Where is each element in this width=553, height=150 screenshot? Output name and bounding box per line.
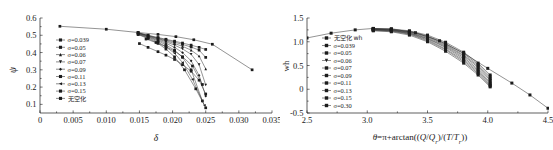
series-point: [183, 68, 186, 71]
series-point: [192, 38, 195, 41]
legend-label: σ=0.06: [334, 57, 352, 64]
legend-label: σ=0.15: [334, 94, 352, 101]
series-line: [138, 34, 202, 101]
series-point: [444, 50, 447, 53]
legend-label: σ=0.06: [68, 51, 86, 58]
legend-label: σ=0.15: [68, 87, 86, 94]
legend-marker: [59, 75, 62, 78]
series-point: [191, 78, 194, 81]
left-y-axis-title: ψ: [8, 66, 18, 73]
legend-marker: [325, 96, 328, 99]
series-point: [204, 106, 207, 109]
legend-label: σ=0.09: [334, 72, 352, 79]
series-point: [190, 70, 193, 73]
series-point: [330, 32, 333, 35]
legend-marker: [325, 81, 328, 84]
x-tick-label: 4.5: [543, 115, 553, 125]
series-point: [137, 31, 140, 34]
series-line: [373, 28, 490, 75]
series-point: [198, 46, 201, 49]
right-y-axis-title: wh: [281, 60, 291, 71]
series-point: [354, 28, 357, 31]
x-tick-label: 0.005: [64, 115, 83, 125]
x-tick-label: 0.020: [163, 115, 182, 125]
right-x-axis-title: θ=π+arctan((Q/Qr)/(T/Tr)): [373, 132, 468, 145]
series-point: [181, 48, 184, 51]
series-point: [547, 107, 550, 110]
left-plot-svg: 0.10.20.30.40.50.600.0050.0100.0150.0200…: [0, 0, 280, 150]
series-point: [138, 42, 141, 45]
legend-label: σ=0.05: [334, 49, 352, 56]
series-line: [138, 33, 206, 85]
x-tick-label: 0.035: [262, 115, 280, 125]
right-plot-svg: -0.500.51.01.52.53.03.54.04.5无空化 whσ=0.0…: [280, 0, 553, 150]
legend-label: σ=0.11: [334, 79, 352, 86]
series-point: [372, 29, 375, 32]
legend-marker: [59, 46, 62, 49]
series-point: [173, 46, 176, 49]
legend-marker: [325, 74, 328, 77]
y-tick-label: 0.3: [26, 65, 37, 75]
legend-label: σ=0.13: [68, 80, 86, 87]
y-tick-label: 0.1: [26, 99, 37, 109]
left-x-axis-title: δ: [154, 133, 159, 143]
x-tick-label: 0.025: [196, 115, 215, 125]
legend: σ=0.039σ=0.05σ=0.06σ=0.07σ=0.09σ=0.11σ=0…: [56, 36, 89, 102]
legend-label: σ=0.07: [334, 64, 353, 71]
series-point: [204, 93, 207, 96]
series-line: [373, 29, 490, 79]
legend-marker: [59, 38, 62, 41]
series-point: [191, 65, 194, 68]
series-point: [198, 49, 201, 52]
axes: -0.500.51.01.52.53.03.54.04.5: [290, 13, 553, 125]
y-tick-label: 0.5: [26, 30, 37, 40]
legend-marker: [59, 68, 62, 71]
legend-marker: [59, 90, 62, 93]
x-tick-label: 0.010: [97, 115, 116, 125]
legend-marker: [59, 82, 62, 85]
series-line: [138, 35, 206, 108]
series-point: [306, 36, 309, 39]
series-point: [157, 33, 160, 36]
legend-label: σ=0.039: [334, 42, 355, 49]
series-point: [194, 87, 197, 90]
series-point: [181, 63, 184, 66]
chart-panel-left: 0.10.20.30.40.50.600.0050.0100.0150.0200…: [0, 0, 280, 150]
legend-label: σ=0.30: [334, 102, 352, 109]
legend-label: 无空化: [68, 95, 86, 103]
x-tick-label: 4.0: [482, 115, 493, 125]
series-point: [251, 68, 254, 71]
series-point: [528, 93, 531, 96]
series-point: [486, 67, 489, 70]
series-point: [165, 54, 168, 57]
series-point: [489, 85, 492, 88]
series-point: [190, 46, 193, 49]
series-point: [190, 49, 193, 52]
series-point: [105, 28, 108, 31]
series-line: [373, 29, 490, 82]
series-point: [426, 40, 429, 43]
series-point: [173, 56, 176, 59]
series-point: [204, 84, 207, 87]
legend-label: σ=0.11: [68, 73, 86, 80]
legend-marker: [59, 97, 62, 100]
legend: 无空化 whσ=0.039σ=0.05σ=0.06σ=0.07σ=0.09σ=0…: [322, 34, 363, 109]
series-point: [408, 34, 411, 37]
x-tick-label: 0.030: [229, 115, 248, 125]
y-tick-label: 1.5: [293, 13, 304, 23]
series-point: [510, 82, 513, 85]
series-point: [198, 63, 201, 66]
legend-marker: [325, 36, 328, 39]
legend-marker: [325, 104, 328, 107]
series-point: [477, 74, 480, 77]
x-tick-label: 0.015: [130, 115, 149, 125]
y-tick-label: 0: [299, 84, 303, 94]
legend-marker: [325, 89, 328, 92]
series-point: [59, 25, 62, 28]
x-tick-label: 3.0: [362, 115, 373, 125]
legend-marker: [325, 44, 328, 47]
legend-label: σ=0.13: [334, 87, 352, 94]
series-point: [181, 55, 184, 58]
series-point: [173, 50, 176, 53]
series-point: [147, 46, 150, 49]
